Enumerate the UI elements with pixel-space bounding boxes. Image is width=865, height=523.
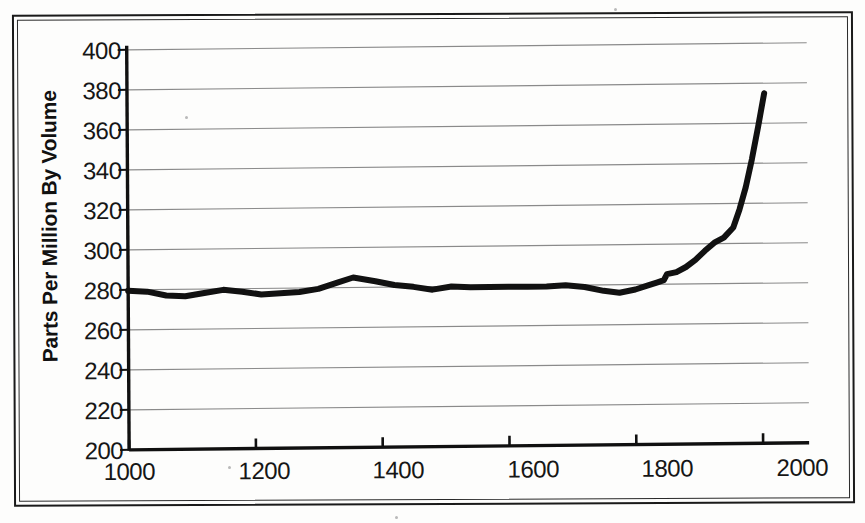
chart-area: Parts Per Million By Volume 400 380 360 …: [0, 0, 865, 523]
y-axis-line: [127, 46, 129, 451]
scanned-chart-page: Parts Per Million By Volume 400 380 360 …: [0, 0, 865, 523]
x-axis-line: [129, 443, 809, 450]
gridlines: [127, 43, 809, 410]
plot-svg: [0, 0, 865, 523]
